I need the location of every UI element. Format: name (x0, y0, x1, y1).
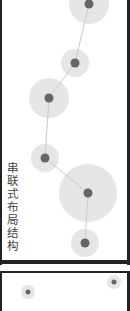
panel-border-top (0, 271, 130, 273)
node-dot (81, 239, 90, 248)
panel-border-right (127, 0, 130, 265)
node-dot (45, 94, 54, 103)
node-dot (112, 280, 117, 285)
panel-border-bottom (0, 261, 130, 264)
node-dot (26, 290, 31, 295)
panel-gap (2, 264, 127, 271)
node-dot (41, 154, 50, 163)
node-dot (84, 189, 93, 198)
panel-border-right (127, 271, 130, 302)
panel-border-left (0, 271, 2, 302)
panel-border-left (0, 0, 2, 265)
node-dot (71, 59, 80, 68)
diagram-label: 串联式布局结构 (4, 162, 20, 253)
